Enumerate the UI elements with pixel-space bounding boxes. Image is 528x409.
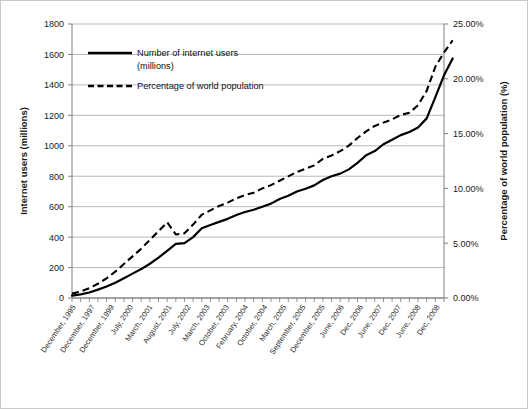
left-tick-label: 1400 <box>44 80 64 90</box>
right-tick-label: 20.00% <box>453 74 484 84</box>
chart-figure: 020040060080010001200140016001800 0.00%5… <box>0 0 528 409</box>
left-tick-label: 1000 <box>44 141 64 151</box>
left-tick-label: 200 <box>49 263 64 273</box>
plot-area-background <box>72 24 444 298</box>
right-tick-label: 5.00% <box>453 239 479 249</box>
right-axis-title: Percentage of world population (%) <box>498 81 509 240</box>
internet-users-line-chart: 020040060080010001200140016001800 0.00%5… <box>1 1 528 409</box>
left-tick-label: 0 <box>59 293 64 303</box>
left-axis-title: Internet users (millions) <box>18 107 29 215</box>
right-tick-label: 25.00% <box>453 19 484 29</box>
legend-label-percentage: Percentage of world population <box>137 81 264 91</box>
right-tick-label: 0.00% <box>453 293 479 303</box>
right-tick-label: 15.00% <box>453 129 484 139</box>
legend-label-internet-users-line1: Number of internet users <box>137 48 239 58</box>
left-axis-ticks: 020040060080010001200140016001800 <box>44 19 72 303</box>
left-tick-label: 1600 <box>44 50 64 60</box>
legend-label-internet-users-line2: (millions) <box>137 61 174 71</box>
x-axis-labels: December, 1995December, 1997December, 19… <box>39 303 442 356</box>
left-tick-label: 400 <box>49 233 64 243</box>
right-tick-label: 10.00% <box>453 184 484 194</box>
left-tick-label: 1200 <box>44 111 64 121</box>
left-tick-label: 1800 <box>44 19 64 29</box>
left-tick-label: 800 <box>49 172 64 182</box>
left-tick-label: 600 <box>49 202 64 212</box>
x-axis-ticks <box>72 298 444 302</box>
